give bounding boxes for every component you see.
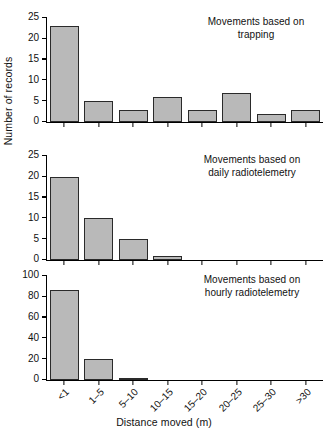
y-axis-tick: 5 bbox=[42, 100, 47, 101]
y-axis-tick-label: 0 bbox=[33, 116, 39, 126]
bar-slot bbox=[82, 276, 117, 380]
bar-slot bbox=[116, 156, 151, 260]
x-tick-label-slot: 1–5 bbox=[82, 380, 117, 420]
y-axis-tick-label: 25 bbox=[28, 150, 39, 160]
y-axis-tick: 5 bbox=[42, 238, 47, 239]
bar bbox=[222, 93, 251, 122]
bar bbox=[84, 359, 113, 380]
y-axis-tick-label: 60 bbox=[28, 312, 39, 322]
y-axis-tick: 25 bbox=[42, 155, 47, 156]
panel-annotation-trapping: Movements based on trapping bbox=[186, 16, 326, 41]
x-tick-label-slot: 10–15 bbox=[151, 380, 186, 420]
y-axis-tick-label: 20 bbox=[28, 354, 39, 364]
y-axis-tick: 25 bbox=[42, 17, 47, 18]
panel-annotation-hourly-radiotelemetry: Movements based on hourly radiotelemetry bbox=[178, 274, 326, 299]
y-axis-tick: 20 bbox=[42, 38, 47, 39]
bar bbox=[119, 239, 148, 260]
y-axis-tick: 100 bbox=[42, 275, 47, 276]
panel-daily-radiotelemetry: 0510152025 Movements based on daily radi… bbox=[0, 138, 328, 268]
x-axis-tick bbox=[236, 122, 237, 127]
bar bbox=[84, 218, 113, 260]
y-axis-tick: 60 bbox=[42, 316, 47, 317]
y-axis-tick: 20 bbox=[42, 176, 47, 177]
y-axis-tick-label: 80 bbox=[28, 291, 39, 301]
x-axis-tick bbox=[133, 122, 134, 127]
y-axis-tick: 10 bbox=[42, 79, 47, 80]
x-axis-tick bbox=[167, 122, 168, 127]
bar-slot bbox=[82, 156, 117, 260]
x-tick-label-slot: 5–10 bbox=[116, 380, 151, 420]
panel-hourly-radiotelemetry: <11–55–1010–1515–2020–2525–30>30 0204060… bbox=[0, 258, 328, 438]
bar bbox=[153, 97, 182, 122]
y-axis-tick-label: 100 bbox=[22, 270, 39, 280]
bar-slot bbox=[47, 276, 82, 380]
x-axis-tick bbox=[202, 122, 203, 127]
y-axis-tick-label: 20 bbox=[28, 33, 39, 43]
x-tick-label-slot: <1 bbox=[47, 380, 82, 420]
figure-panel-chart: Number of records 0510152025 Movements b… bbox=[0, 0, 328, 438]
y-axis-tick: 15 bbox=[42, 58, 47, 59]
y-axis-tick: 10 bbox=[42, 217, 47, 218]
bar-slot bbox=[47, 156, 82, 260]
y-axis-tick-label: 15 bbox=[28, 192, 39, 202]
bar bbox=[291, 110, 320, 122]
x-tick-label-slot: 15–20 bbox=[185, 380, 220, 420]
y-axis-tick: 15 bbox=[42, 196, 47, 197]
y-axis-tick: 0 bbox=[42, 121, 47, 122]
x-axis-tick bbox=[98, 122, 99, 127]
y-axis-tick-label: 5 bbox=[33, 96, 39, 106]
bar-slot bbox=[151, 18, 186, 122]
panel-annotation-daily-radiotelemetry: Movements based on daily radiotelemetry bbox=[178, 154, 326, 179]
y-axis-tick-label: 5 bbox=[33, 234, 39, 244]
x-tick-label-slot: 20–25 bbox=[220, 380, 255, 420]
y-axis-tick-label: 15 bbox=[28, 54, 39, 64]
x-axis-tick-label: 15–20 bbox=[183, 387, 210, 414]
bar-slot bbox=[47, 18, 82, 122]
y-axis-tick-label: 10 bbox=[28, 75, 39, 85]
x-axis-label: Distance moved (m) bbox=[0, 416, 328, 428]
bar-slot bbox=[116, 276, 151, 380]
y-axis-tick-label: 20 bbox=[28, 171, 39, 181]
bar bbox=[257, 114, 286, 122]
bar-slot bbox=[116, 18, 151, 122]
y-axis-tick-label: 10 bbox=[28, 213, 39, 223]
x-axis-tick-label: 10–15 bbox=[148, 387, 175, 414]
x-axis-tick-label: 5–10 bbox=[118, 387, 141, 410]
x-axis-tick-label: <1 bbox=[56, 387, 71, 402]
bar bbox=[50, 26, 79, 122]
bar bbox=[50, 177, 79, 260]
y-axis-tick: 80 bbox=[42, 296, 47, 297]
y-axis-tick-label: 25 bbox=[28, 12, 39, 22]
bar bbox=[188, 110, 217, 122]
y-axis-tick: 40 bbox=[42, 337, 47, 338]
bar bbox=[50, 290, 79, 380]
x-tick-label-slot: 25–30 bbox=[254, 380, 289, 420]
panel-trapping: 0510152025 Movements based on trapping bbox=[0, 0, 328, 130]
y-axis-tick: 20 bbox=[42, 358, 47, 359]
x-tick-label-slot: >30 bbox=[289, 380, 324, 420]
y-axis-tick-label: 0 bbox=[33, 374, 39, 384]
x-axis-tick-label: 1–5 bbox=[87, 387, 106, 406]
x-axis-tick-labels: <11–55–1010–1515–2020–2525–30>30 bbox=[47, 380, 323, 420]
bar bbox=[119, 110, 148, 122]
x-axis-tick bbox=[64, 122, 65, 127]
x-axis-tick bbox=[271, 122, 272, 127]
y-axis-tick: 0 bbox=[42, 379, 47, 380]
bar bbox=[84, 101, 113, 122]
bar-slot bbox=[82, 18, 117, 122]
x-axis-tick-label: 20–25 bbox=[217, 387, 244, 414]
x-axis-tick-label: 25–30 bbox=[252, 387, 279, 414]
x-axis-tick-label: >30 bbox=[294, 387, 313, 406]
y-axis-tick-label: 40 bbox=[28, 333, 39, 343]
x-axis-tick bbox=[305, 122, 306, 127]
